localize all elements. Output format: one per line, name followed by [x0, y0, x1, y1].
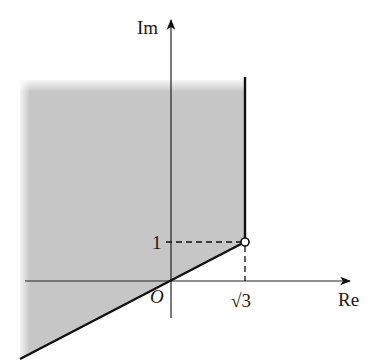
x-tick-label-sqrt3: √3	[231, 290, 251, 311]
shaded-region	[20, 80, 245, 360]
origin-label: O	[150, 286, 164, 307]
shade-fade-left	[18, 78, 30, 361]
real-axis-label: Re	[338, 289, 359, 310]
y-tick-label-one: 1	[152, 232, 162, 253]
open-point-marker	[241, 238, 249, 246]
complex-plane-diagram: Im Re O √3 1	[0, 0, 372, 361]
imaginary-axis-label: Im	[137, 17, 158, 38]
shade-fade-top	[15, 78, 250, 92]
